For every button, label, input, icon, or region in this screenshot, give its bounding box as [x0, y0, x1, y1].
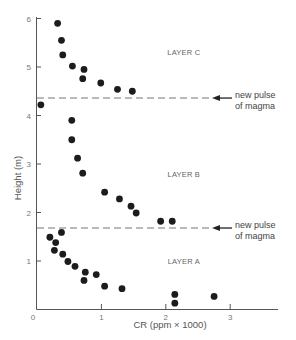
data-point	[58, 229, 65, 236]
data-point	[129, 88, 136, 95]
data-point	[72, 263, 79, 270]
y-tick-label: 4	[27, 112, 32, 121]
data-point	[37, 101, 44, 108]
layer-labels: LAYER ALAYER BLAYER C	[167, 48, 200, 266]
data-point	[101, 283, 108, 290]
annotation-line-1: new pulse	[235, 220, 276, 230]
y-axis-label: Height (m)	[12, 156, 23, 200]
series-layer-b	[68, 117, 175, 225]
data-point	[79, 75, 86, 82]
layer-label: LAYER B	[168, 170, 201, 179]
data-point	[68, 136, 75, 143]
data-point	[116, 196, 123, 203]
magma-pulse-annotation: new pulseof magma	[37, 90, 276, 111]
annotation-line-2: of magma	[235, 231, 275, 241]
data-point	[51, 247, 58, 254]
data-point	[114, 86, 121, 93]
annotation-line-1: new pulse	[235, 90, 276, 100]
x-axis-label: CR (ppm × 1000)	[133, 319, 206, 330]
y-tick-label: 2	[27, 209, 32, 218]
data-point	[133, 210, 140, 217]
data-point	[69, 63, 76, 70]
y-tick-label: 1	[27, 257, 32, 266]
data-point	[59, 51, 66, 58]
scatter-chart: 123456 0123 new pulseof magmanew pulseof…	[0, 0, 296, 340]
data-point	[81, 66, 88, 73]
arrow-left-icon	[212, 225, 220, 231]
data-point	[82, 269, 89, 276]
data-point	[54, 20, 61, 27]
data-point	[97, 80, 104, 87]
data-point	[171, 291, 178, 298]
x-tick-label: 3	[228, 313, 233, 322]
data-point	[74, 155, 81, 162]
layer-label: LAYER A	[168, 257, 200, 266]
series-layer-a	[46, 229, 217, 307]
data-point	[211, 293, 218, 300]
data-point	[119, 285, 126, 292]
data-point	[58, 37, 65, 44]
data-point	[157, 218, 164, 225]
arrow-left-icon	[212, 95, 220, 101]
y-tick-label: 5	[27, 63, 32, 72]
x-tick-label: 0	[31, 313, 36, 322]
data-point	[68, 117, 75, 124]
data-point	[81, 277, 88, 284]
data-point	[52, 239, 59, 246]
data-point	[93, 271, 100, 278]
data-point	[79, 170, 86, 177]
data-point	[101, 189, 108, 196]
x-tick-label: 1	[99, 313, 104, 322]
data-point	[171, 300, 178, 307]
annotation-line-2: of magma	[235, 101, 275, 111]
data-point	[46, 234, 53, 241]
layer-label: LAYER C	[167, 48, 200, 57]
magma-pulse-lines: new pulseof magmanew pulseof magma	[37, 90, 276, 241]
series-layer-c	[37, 20, 135, 108]
data-point	[169, 218, 176, 225]
y-tick-label: 6	[27, 15, 32, 24]
y-tick-label: 3	[27, 160, 32, 169]
data-point	[65, 258, 72, 265]
data-point	[59, 251, 66, 258]
magma-pulse-annotation: new pulseof magma	[37, 220, 276, 241]
data-point	[128, 203, 135, 210]
